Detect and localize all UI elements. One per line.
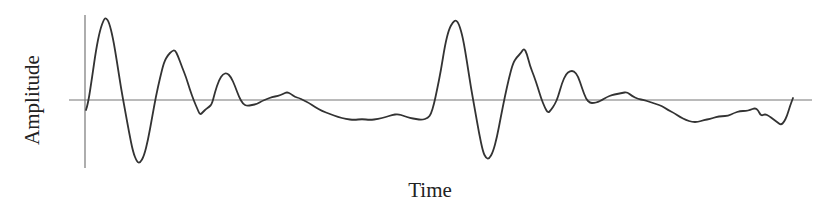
waveform-chart: Amplitude Time <box>0 0 840 211</box>
y-axis-label: Amplitude <box>20 55 45 145</box>
waveform-line <box>86 18 793 162</box>
x-axis-label: Time <box>408 178 452 203</box>
